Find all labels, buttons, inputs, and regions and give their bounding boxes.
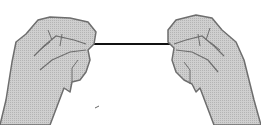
stray-mark: [95, 106, 99, 108]
illustration: [0, 0, 261, 125]
right-hand-icon: [168, 15, 261, 125]
hands-floss-illustration: [0, 0, 261, 125]
left-hand-icon: [0, 17, 96, 125]
